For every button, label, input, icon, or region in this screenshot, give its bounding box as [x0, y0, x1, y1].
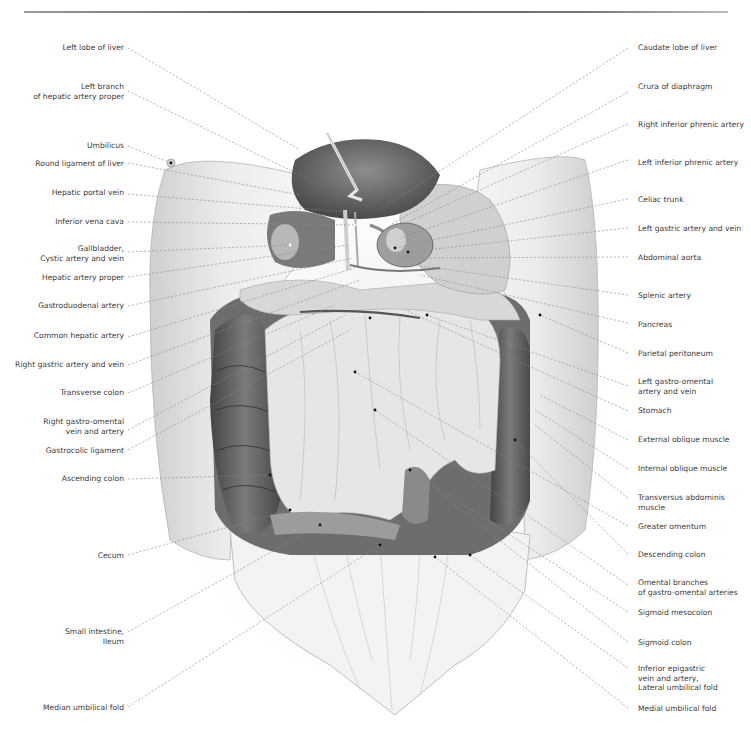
label-inferior-vena-cava: Inferior vena cava	[55, 217, 124, 227]
label-crura-of-diaphragm: Crura of diaphragm	[638, 82, 712, 92]
label-small-intestine: Small intestine,Ileum	[65, 627, 124, 646]
label-hepatic-artery-proper: Hepatic artery proper	[42, 273, 124, 283]
label-common-hepatic-artery: Common hepatic artery	[34, 331, 124, 341]
label-internal-oblique: Internal oblique muscle	[638, 464, 727, 474]
label-omental-branches: Omental branchesof gastro-omental arteri…	[638, 578, 738, 597]
label-round-ligament: Round ligament of liver	[35, 159, 124, 169]
label-right-gastric-artery: Right gastric artery and vein	[15, 360, 124, 370]
label-descending-colon: Descending colon	[638, 550, 706, 560]
label-transverse-colon: Transverse colon	[60, 388, 124, 398]
label-cecum: Cecum	[98, 551, 124, 561]
label-umbilicus: Umbilicus	[87, 141, 124, 151]
label-right-gastro-omental: Right gastro-omentalvein and artery	[43, 417, 124, 436]
label-ascending-colon: Ascending colon	[62, 474, 124, 484]
label-pancreas: Pancreas	[638, 320, 672, 330]
label-right-inferior-phrenic: Right inferior phrenic artery	[638, 120, 744, 130]
label-sigmoid-mesocolon: Sigmoid mesocolon	[638, 608, 712, 618]
label-sigmoid-colon: Sigmoid colon	[638, 638, 692, 648]
gallbladder-fundus	[271, 224, 299, 260]
label-left-branch-hepatic-artery: Left branchof hepatic artery proper	[33, 82, 124, 101]
label-parietal-peritoneum: Parietal peritoneum	[638, 349, 713, 359]
label-gastrocolic-ligament: Gastrocolic ligament	[46, 446, 124, 456]
label-abdominal-aorta: Abdominal aorta	[638, 253, 701, 263]
label-left-lobe-of-liver: Left lobe of liver	[62, 43, 124, 53]
label-left-gastric-artery: Left gastric artery and vein	[638, 224, 741, 234]
label-inferior-epigastric: Inferior epigastricvein and artery,Later…	[638, 664, 718, 693]
label-greater-omentum: Greater omentum	[638, 522, 706, 532]
label-median-umbilical-fold: Median umbilical fold	[43, 703, 124, 713]
label-external-oblique: External oblique muscle	[638, 435, 729, 445]
label-gallbladder: Gallbladder,Cystic artery and vein	[40, 244, 124, 263]
label-caudate-lobe: Caudate lobe of liver	[638, 43, 717, 53]
label-transversus-abdominis: Transversus abdominismuscle	[638, 493, 725, 512]
sigmoid-colon	[402, 467, 430, 524]
label-left-gastro-omental: Left gastro-omentalartery and vein	[638, 377, 713, 396]
label-gastroduodenal-artery: Gastroduodenal artery	[38, 301, 124, 311]
label-splenic-artery: Splenic artery	[638, 291, 691, 301]
label-stomach: Stomach	[638, 406, 671, 416]
label-left-inferior-phrenic: Left inferior phrenic artery	[638, 158, 738, 168]
label-celiac-trunk: Celiac trunk	[638, 195, 684, 205]
label-medial-umbilical-fold: Medial umbilical fold	[638, 704, 716, 714]
label-hepatic-portal-vein: Hepatic portal vein	[52, 188, 124, 198]
